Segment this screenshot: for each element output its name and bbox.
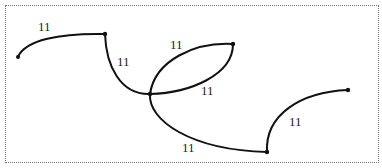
edge-label-c-d-upper: 11 xyxy=(170,37,183,52)
node-c xyxy=(148,92,152,96)
node-f xyxy=(346,88,350,92)
edge-e-f xyxy=(267,90,348,152)
edge-label-e-f: 11 xyxy=(289,114,302,129)
graph-diagram: 11 11 11 11 11 11 xyxy=(0,0,382,168)
edge-c-e xyxy=(150,94,267,152)
edge-label-a-b: 11 xyxy=(38,19,51,34)
edge-a-b xyxy=(18,34,105,57)
edge-label-b-c: 11 xyxy=(117,54,130,69)
node-a xyxy=(16,55,20,59)
edge-label-c-d-lower: 11 xyxy=(201,83,214,98)
node-d xyxy=(231,42,235,46)
node-b xyxy=(103,32,107,36)
node-e xyxy=(265,150,269,154)
edge-label-c-e: 11 xyxy=(182,140,195,155)
